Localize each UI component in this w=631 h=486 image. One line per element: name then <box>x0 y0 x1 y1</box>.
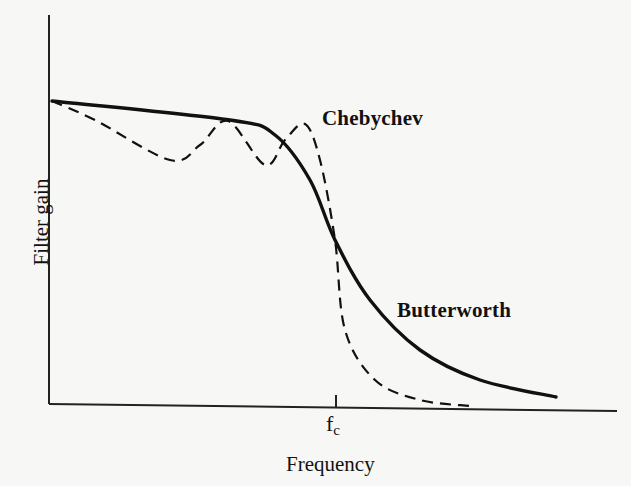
chebychev-label: Chebychev <box>322 106 423 131</box>
x-axis-label: Frequency <box>286 452 375 477</box>
butterworth-curve <box>52 101 556 397</box>
y-axis-label: Filter gain <box>29 179 54 266</box>
chart-canvas <box>0 0 631 486</box>
filter-gain-figure: Chebychev Butterworth fc Frequency Filte… <box>0 0 631 486</box>
fc-subscript: c <box>333 422 340 438</box>
fc-tick-label: fc <box>326 411 340 439</box>
x-axis <box>49 404 617 411</box>
butterworth-label: Butterworth <box>397 298 511 323</box>
chebychev-curve <box>52 101 470 406</box>
